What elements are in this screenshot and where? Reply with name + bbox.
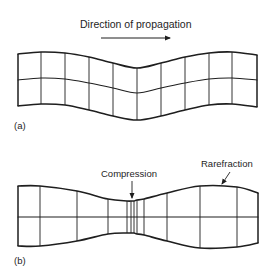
panel-a-label: (a) [14,121,26,131]
transverse-wave-grid [18,52,257,120]
longitudinal-wave-grid [18,186,258,249]
direction-of-propagation-label: Direction of propagation [80,19,192,30]
wave-diagram [0,0,273,279]
grid-middle-line [18,78,257,93]
rarefraction-arrow-icon [222,172,230,184]
panel-b-label: (b) [14,256,26,266]
grid-bottom-edge [18,233,258,248]
grid-top-edge [18,186,258,202]
longitudinal-wave-panel [18,172,258,248]
compression-label: Compression [101,169,157,179]
grid-bottom-edge [18,104,257,120]
grid-top-edge [18,52,257,68]
transverse-wave-panel [18,38,257,120]
rarefraction-label: Rarefraction [201,159,253,169]
